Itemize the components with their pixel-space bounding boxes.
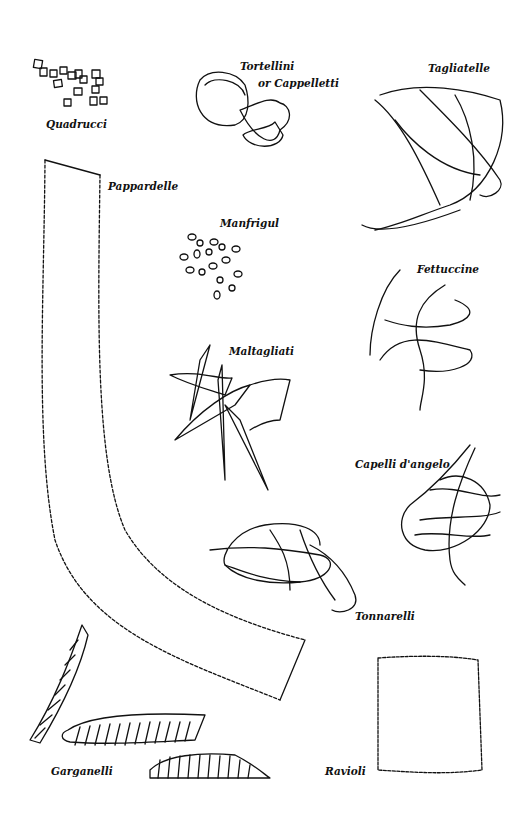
label-garganelli: Garganelli (51, 765, 113, 777)
label-maltagliati: Maltagliati (229, 345, 294, 357)
maltagliati-drawing (170, 345, 290, 490)
pappardelle-drawing (42, 160, 305, 700)
quadrucci-drawing (33, 59, 107, 106)
label-ravioli: Ravioli (325, 765, 366, 777)
label-cappelletti: or Cappelletti (258, 77, 339, 89)
fettuccine-drawing (370, 270, 472, 410)
label-capelli: Capelli d'angelo (355, 458, 450, 470)
label-quadrucci: Quadrucci (46, 118, 107, 130)
ravioli-drawing (378, 656, 482, 772)
label-pappardelle: Pappardelle (108, 180, 178, 192)
label-tagliatelle: Tagliatelle (428, 62, 490, 74)
label-fettuccine: Fettuccine (417, 263, 479, 275)
tagliatelle-drawing (362, 87, 503, 230)
label-tortellini: Tortellini (240, 60, 294, 72)
garganelli-drawing (30, 625, 270, 778)
label-manfrigul: Manfrigul (220, 217, 279, 229)
label-tonnarelli: Tonnarelli (355, 610, 415, 622)
manfrigul-drawing (180, 234, 242, 299)
tonnarelli-drawing (210, 524, 356, 612)
